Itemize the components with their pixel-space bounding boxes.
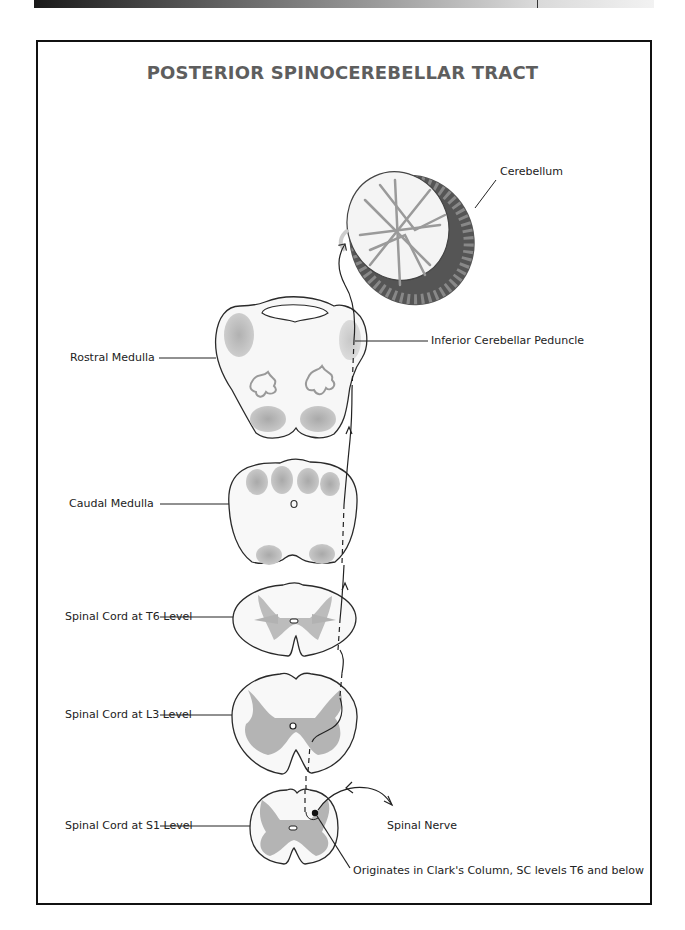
caudal-medulla-drawing — [229, 459, 357, 565]
label-spinal-cord-s1: Spinal Cord at S1 Level — [65, 819, 193, 832]
spinal-cord-s1-drawing — [250, 789, 338, 864]
label-origin-clarks-column: Originates in Clark's Column, SC levels … — [353, 864, 644, 877]
cerebellum-drawing — [328, 154, 496, 326]
label-spinal-cord-l3: Spinal Cord at L3 Level — [65, 708, 192, 721]
cerebellum-leader — [475, 180, 496, 208]
tract-diagram — [0, 0, 685, 930]
rostral-medulla-drawing — [216, 297, 367, 438]
label-spinal-cord-t6: Spinal Cord at T6 Level — [65, 610, 192, 623]
label-caudal-medulla: Caudal Medulla — [69, 497, 154, 510]
spinal-cord-t6-drawing — [233, 583, 356, 656]
label-spinal-nerve: Spinal Nerve — [387, 819, 457, 832]
label-rostral-medulla: Rostral Medulla — [70, 351, 155, 364]
label-cerebellum: Cerebellum — [500, 165, 563, 178]
spinal-cord-l3-drawing — [232, 673, 357, 774]
label-inferior-cerebellar-peduncle: Inferior Cerebellar Peduncle — [431, 334, 584, 347]
